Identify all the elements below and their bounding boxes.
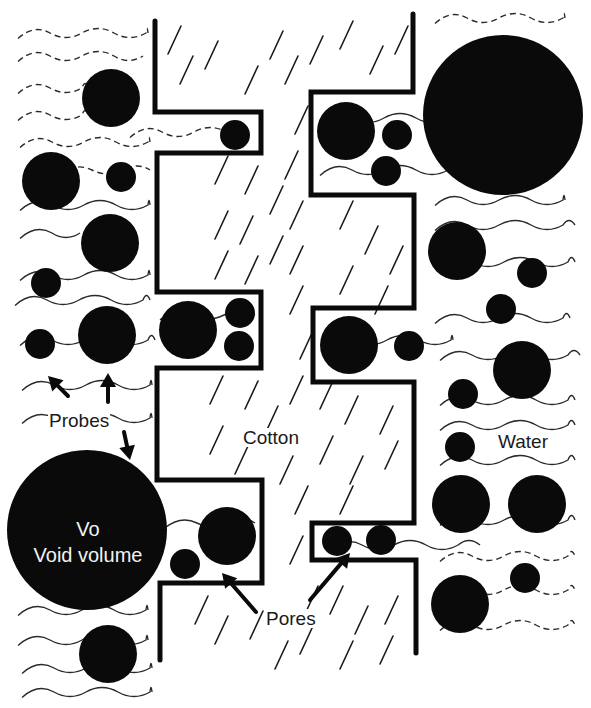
probe-circle [431,575,489,633]
probe-circle [432,475,490,533]
water-wave-line [18,29,148,39]
hatch-mark [290,376,303,404]
probe-circle [82,69,140,127]
probe-circle [198,507,256,565]
probe-arrow-3 [119,432,135,460]
probe-circle [508,475,566,533]
hatch-mark [180,56,193,84]
probe-circle [317,102,375,160]
void-volume-symbol: Vo [18,516,158,542]
hatch-mark [380,406,393,434]
probe-circle [517,258,547,288]
cotton-pore-diagram [0,0,591,708]
hatch-mark [345,396,358,424]
water-wave-line [435,196,565,206]
hatch-mark [270,236,283,264]
probe-circle [493,341,551,399]
water-wave-line [18,84,88,94]
water-wave-line [330,541,480,551]
hatch-mark [285,151,298,179]
hatch-mark [240,216,253,244]
hatch-mark [390,246,403,274]
hatch-mark [275,641,288,669]
hatch-mark [295,486,308,514]
hatch-mark [215,156,228,184]
hatch-mark [340,21,353,49]
probe-circle [31,268,61,298]
hatch-mark [295,106,308,134]
hatch-mark [250,611,263,639]
probe-circle [382,120,412,150]
hatch-mark [290,201,303,229]
hatch-mark [300,626,313,654]
hatch-mark [205,41,218,69]
void-volume-text: Void volume [18,542,158,568]
probe-circle [170,549,200,579]
hatch-mark [285,56,298,84]
probe-circle [79,625,137,683]
probe-circle [224,331,254,361]
probe-circle [486,294,516,324]
hatch-mark [290,286,303,314]
hatch-mark [168,26,181,54]
probe-circle [159,301,217,359]
hatch-mark [215,251,228,279]
hatch-mark [270,31,283,59]
hatch-mark [380,636,393,664]
probe-circle [78,306,136,364]
hatch-mark [195,596,208,624]
hatch-mark [235,446,248,474]
probe-circle [371,156,401,186]
cotton-label: Cotton [242,428,300,447]
water-wave-line [440,552,575,562]
pores-label: Pores [265,609,317,628]
hatch-mark [245,166,258,194]
hatch-mark [310,36,323,64]
probe-circle [510,563,540,593]
hatch-mark [215,616,228,644]
water-wave-line [440,421,575,431]
hatch-mark [330,586,343,614]
water-wave-line [18,52,143,62]
hatch-mark [365,226,378,254]
hatch-mark [270,186,283,214]
hatch-mark [370,46,383,74]
hatch-mark [340,641,353,669]
hatch-mark [290,246,303,274]
hatch-mark [210,376,223,404]
probe-circle [322,526,352,556]
hatch-mark [245,256,258,284]
hatch-mark [280,456,293,484]
hatch-mark [320,381,333,409]
water-wave-line [20,230,80,239]
hatch-mark [355,606,368,634]
water-wave-line [435,14,565,24]
probe-circle [225,298,255,328]
hatch-mark [245,381,258,409]
hatch-mark [245,66,258,94]
water-wave-line [18,111,88,121]
pore-arrow-left [222,573,256,612]
hatch-mark [350,456,363,484]
arrow-head-icon [119,445,135,460]
probe-circle [22,152,80,210]
hatch-mark [385,596,398,624]
hatch-mark [290,536,303,564]
probes-label: Probes [48,411,110,430]
probe-circle [106,162,136,192]
hatch-mark [340,486,353,514]
water-wave-line [22,381,152,391]
water-label: Water [497,432,549,451]
hatch-mark [340,266,353,294]
probe-circle [81,214,139,272]
hatch-mark [340,201,353,229]
probe-circle [394,331,424,361]
void-volume-label: Vo Void volume [17,516,159,568]
hatch-mark [215,211,228,239]
hatch-mark [395,26,408,54]
hatch-mark [320,436,333,464]
probe-arrow-2 [100,373,116,402]
probe-circle [428,222,486,280]
probe-circle [445,432,475,462]
probe-circle [448,379,478,409]
